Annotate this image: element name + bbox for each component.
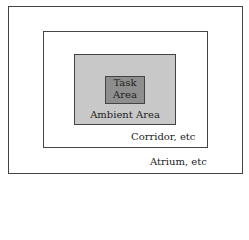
- task-label-line1: Task: [105, 77, 145, 89]
- atrium-label: Atrium, etc: [150, 156, 207, 167]
- task-label-line2: Area: [105, 89, 145, 101]
- ambient-area-label: Ambient Area: [74, 109, 176, 120]
- task-area-label: Task Area: [105, 77, 145, 101]
- corridor-label: Corridor, etc: [131, 131, 195, 142]
